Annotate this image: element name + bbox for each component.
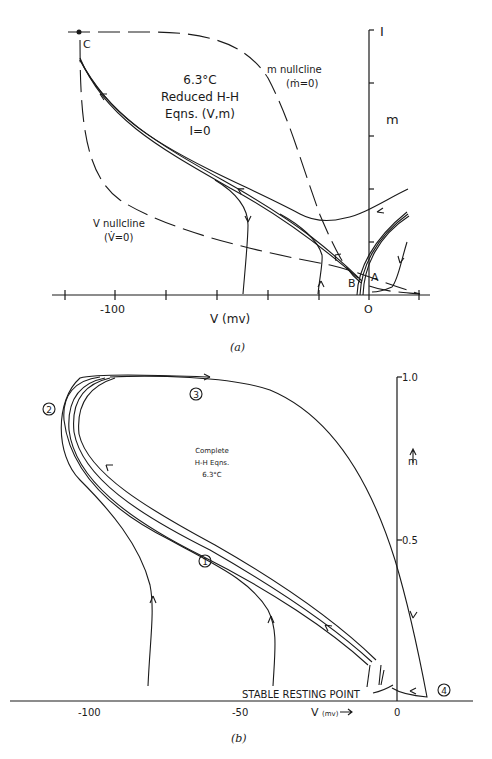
wiggle-2 bbox=[379, 665, 384, 685]
arrow-b-mid bbox=[268, 616, 274, 623]
trajectory-b-return bbox=[110, 376, 427, 697]
x-tick-m100-b: -100 bbox=[78, 707, 101, 718]
svg-text:I=0: I=0 bbox=[189, 124, 210, 138]
arrow-v2 bbox=[318, 281, 324, 287]
arrow-dip bbox=[377, 208, 384, 213]
trajectory-right-dip bbox=[80, 60, 408, 221]
x-tick-m100: -100 bbox=[100, 303, 125, 316]
svg-text:H-H Eqns.: H-H Eqns. bbox=[195, 459, 229, 467]
wiggle-1 bbox=[367, 665, 370, 687]
caption-b: (b) bbox=[231, 732, 247, 745]
svg-text:6.3°C: 6.3°C bbox=[202, 471, 222, 479]
x-tick-m50-b: -50 bbox=[232, 707, 248, 718]
trajectory-b-5 bbox=[79, 378, 376, 660]
arrow-b-in bbox=[410, 688, 416, 694]
panel-b: 1.0 0.5 m -100 -50 0 V (mv) Complete H-H… bbox=[10, 372, 473, 745]
y-axis-label-a: m bbox=[386, 112, 399, 127]
trajectory-v1 bbox=[215, 180, 248, 294]
panel-a-title: 6.3°C Reduced H-H Eqns. (V,m) I=0 bbox=[161, 73, 239, 138]
m-nullcline bbox=[68, 32, 420, 294]
arrow-b-down bbox=[410, 611, 417, 618]
stable-resting-point-label: STABLE RESTING POINT bbox=[242, 689, 361, 700]
y-tick-1: I bbox=[380, 24, 384, 39]
svg-text:Reduced H-H: Reduced H-H bbox=[161, 90, 239, 104]
arrow-b-left bbox=[150, 596, 156, 603]
trajectory-b-2 bbox=[64, 377, 275, 686]
circled-label-3: 3 bbox=[190, 388, 202, 400]
y-tick-05-label: 0.5 bbox=[402, 535, 418, 546]
point-b-label: B bbox=[348, 277, 356, 290]
x-tick-0-b: 0 bbox=[394, 707, 400, 718]
y-axis-label-b: m bbox=[408, 456, 418, 467]
v-nullcline-label: V nullcline bbox=[93, 218, 145, 229]
caption-a: (a) bbox=[230, 341, 245, 354]
svg-text:Eqns. (V,m): Eqns. (V,m) bbox=[165, 107, 235, 121]
figure: I m -100 O V (mv) 6.3°C Reduced H-H Eqns… bbox=[0, 0, 492, 759]
panel-b-title: Complete H-H Eqns. 6.3°C bbox=[195, 447, 229, 479]
y-tick-1-label: 1.0 bbox=[402, 372, 418, 383]
x-tick-0: O bbox=[364, 303, 373, 316]
trajectory-v2 bbox=[280, 214, 322, 294]
arrow-b-up-left bbox=[106, 465, 113, 471]
x-axis-label-a: V (mv) bbox=[210, 312, 250, 326]
x-axis-unit-b: (mv) bbox=[322, 710, 339, 718]
point-c-label: C bbox=[83, 38, 91, 51]
v-nullcline-eq: (V̇=0) bbox=[104, 231, 133, 243]
svg-text:2: 2 bbox=[46, 405, 52, 415]
m-nullcline-label: m nullcline bbox=[267, 64, 322, 75]
y-ticks-a bbox=[369, 30, 374, 242]
svg-text:6.3°C: 6.3°C bbox=[183, 73, 216, 87]
svg-text:3: 3 bbox=[193, 390, 199, 400]
right-arrow-icon bbox=[340, 709, 352, 715]
bundle-a-2 bbox=[360, 214, 408, 295]
m-nullcline-eq: (ṁ=0) bbox=[286, 78, 318, 89]
svg-text:4: 4 bbox=[441, 686, 447, 696]
x-axis-label-b: V bbox=[311, 706, 319, 719]
stable-pointer bbox=[373, 685, 393, 693]
svg-text:Complete: Complete bbox=[195, 447, 229, 455]
trajectory-b-4 bbox=[74, 378, 372, 662]
panel-a: I m -100 O V (mv) 6.3°C Reduced H-H Eqns… bbox=[52, 24, 430, 354]
circled-label-4: 4 bbox=[438, 684, 450, 696]
circled-label-2: 2 bbox=[43, 403, 55, 415]
